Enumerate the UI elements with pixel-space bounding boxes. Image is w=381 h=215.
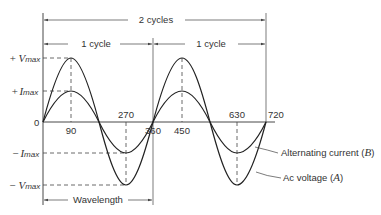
y-label-vmax-neg: −Vmax <box>9 179 41 191</box>
x-tick-90: 90 <box>66 125 77 136</box>
x-tick-450: 450 <box>174 125 190 136</box>
y-label-imax-neg: −Imax <box>12 147 40 159</box>
cycle-2-dimension: 1 cycle <box>154 38 265 49</box>
y-label-imax-pos: +Imax <box>11 85 39 97</box>
x-tick-270: 270 <box>118 109 134 120</box>
svg-text:+Imax: +Imax <box>11 85 39 97</box>
wavelength-dimension: Wavelength <box>44 194 152 205</box>
wavelength-label: Wavelength <box>73 194 123 205</box>
x-tick-630: 630 <box>229 109 245 120</box>
voltage-leader-line <box>256 172 281 178</box>
voltage-curve <box>43 58 266 185</box>
voltage-legend-label: Ac voltage (A) <box>283 171 343 183</box>
current-leader-line <box>255 147 278 153</box>
y-label-zero: 0 <box>34 117 39 128</box>
cycle-1-dimension: 1 cycle <box>44 38 152 49</box>
x-tick-360: 360 <box>145 125 161 136</box>
two-cycles-label: 2 cycles <box>139 14 174 25</box>
current-legend-label: Alternating current (B) <box>281 146 374 158</box>
cycle-1-label: 1 cycle <box>81 38 111 49</box>
cycle-2-label: 1 cycle <box>196 38 226 49</box>
svg-text:−Imax: −Imax <box>12 147 40 159</box>
svg-text:+Vmax: +Vmax <box>9 52 41 64</box>
y-label-vmax-pos: +Vmax <box>9 52 41 64</box>
x-tick-720: 720 <box>268 109 284 120</box>
two-cycles-dimension: 2 cycles <box>44 14 265 25</box>
svg-text:−Vmax: −Vmax <box>9 179 41 191</box>
sine-wave-diagram: 2 cycles 1 cycle 1 cycle +Vmax +Imax 0 −… <box>0 0 381 215</box>
